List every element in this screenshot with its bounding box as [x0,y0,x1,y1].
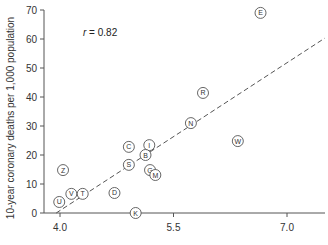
point-label: R [200,89,205,96]
data-point-r: R [198,87,209,98]
x-tick-label: 5.5 [167,222,181,233]
point-label: U [57,198,62,205]
point-label: Z [61,167,66,174]
y-tick-label: 40 [26,92,38,103]
data-point-w: W [232,136,243,147]
data-point-m: M [150,170,161,181]
scatter-chart: 10-year coronary deaths per 1,000 popula… [0,0,328,245]
y-tick-label: 0 [31,208,37,219]
data-point-u: U [54,196,65,207]
point-label: V [69,190,74,197]
data-point-i: I [144,140,155,151]
point-label: N [188,120,193,127]
data-point-c: C [123,141,134,152]
data-point-z: Z [58,165,69,176]
y-tick-label: 50 [26,63,38,74]
point-label: D [112,189,117,196]
data-point-v: V [66,188,77,199]
data-points: ERNWCIBSGMZUVTDK [54,7,266,218]
x-tick-label: 7.0 [280,222,294,233]
data-point-s: S [123,159,134,170]
data-point-e: E [255,7,266,18]
point-label: C [126,143,131,150]
point-label: I [148,142,150,149]
correlation-annotation: r = 0.82 [83,27,118,38]
data-point-k: K [130,208,141,219]
data-point-b: B [140,150,151,161]
y-axis-title: 10-year coronary deaths per 1,000 popula… [5,17,16,219]
data-point-n: N [185,118,196,129]
point-label: M [152,172,158,179]
y-tick-label: 20 [26,150,38,161]
y-tick-label: 60 [26,34,38,45]
data-point-d: D [109,187,120,198]
point-label: W [235,138,242,145]
point-label: T [81,190,86,197]
data-point-t: T [77,188,88,199]
x-tick-label: 4.0 [53,222,67,233]
y-tick-label: 70 [26,5,38,16]
point-label: E [258,9,263,16]
y-tick-label: 10 [26,179,38,190]
y-tick-label: 30 [26,121,38,132]
point-label: K [133,210,138,217]
point-label: B [143,152,148,159]
svg-text:10-year coronary deaths per 1,: 10-year coronary deaths per 1,000 popula… [5,17,16,219]
point-label: S [127,161,132,168]
